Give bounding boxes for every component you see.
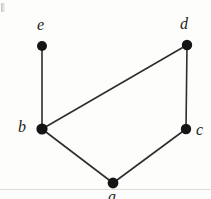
graph-vertex-b	[36, 123, 47, 134]
graph-vertex-c	[181, 124, 191, 134]
graph-edge-a-c	[113, 129, 186, 183]
scan-artifact-baseline-rule	[0, 189, 211, 190]
vertex-label-c: c	[196, 122, 203, 138]
graph-edge-b-a	[42, 129, 113, 183]
graph-edge-d-c	[186, 45, 187, 129]
vertex-layer	[36, 40, 192, 189]
graph-figure: edbca	[0, 0, 211, 199]
vertex-label-d: d	[180, 16, 188, 32]
graph-vertex-e	[37, 41, 47, 51]
vertex-label-a: a	[108, 189, 116, 199]
graph-edge-b-d	[42, 45, 187, 129]
graph-vertex-d	[182, 40, 192, 50]
vertex-label-b: b	[18, 119, 26, 135]
graph-vertex-a	[108, 178, 119, 189]
vertex-label-e: e	[37, 17, 44, 33]
edge-layer	[42, 45, 187, 183]
